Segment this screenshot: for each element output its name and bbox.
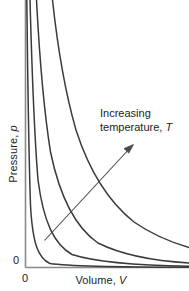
y-axis-label-text: Pressure, <box>7 135 19 183</box>
y-axis-origin-tick: 0 <box>13 254 19 266</box>
annotation-symbol: T <box>165 121 172 133</box>
increasing-temperature-arrow <box>45 145 134 241</box>
x-axis-label: Volume, V <box>64 274 138 286</box>
annotation-line-1: Increasing <box>100 106 188 120</box>
increasing-temperature-annotation: Increasing temperature, T <box>100 106 188 134</box>
annotation-line-2-wrap: temperature, T <box>100 120 188 134</box>
x-axis-origin-tick: 0 <box>22 272 28 284</box>
pressure-volume-isotherm-figure: Pressure, p Volume, V 0 0 Increasing tem… <box>0 0 189 291</box>
x-axis-label-symbol: V <box>119 274 126 286</box>
plot-canvas <box>0 0 189 291</box>
annotation-line-2: temperature, <box>100 121 162 133</box>
y-axis-label-symbol: p <box>7 125 19 131</box>
x-axis-label-text: Volume, <box>75 274 115 286</box>
y-axis-label: Pressure, p <box>7 119 19 189</box>
arrowhead <box>124 145 134 154</box>
